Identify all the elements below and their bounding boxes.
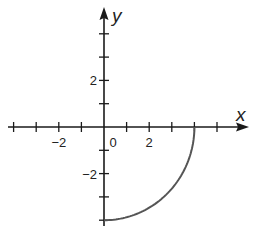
x-tick-label: 2: [146, 135, 153, 150]
x-tick-label: 0: [109, 135, 116, 150]
axes: [8, 7, 249, 226]
x-tick-label: −2: [51, 135, 66, 150]
x-axis-label: x: [235, 104, 247, 125]
y-axis-label: y: [110, 5, 123, 26]
y-tick-label: 2: [90, 73, 97, 88]
chart: −2022−2 x y: [0, 0, 256, 233]
y-tick-label: −2: [82, 167, 97, 182]
